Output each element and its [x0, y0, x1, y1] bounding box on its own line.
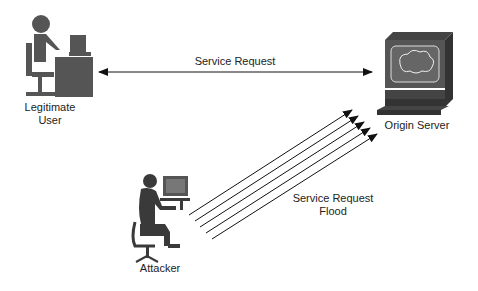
flood-label: Service Request Flood [278, 192, 388, 218]
service-request-label: Service Request [180, 55, 290, 68]
legitimate-user-label-line1: Legitimate [20, 101, 80, 114]
origin-server-label: Origin Server [372, 119, 462, 132]
legitimate-user-label-line2: User [20, 114, 80, 127]
legitimate-user-label: Legitimate User [20, 101, 80, 127]
diagram-canvas [0, 0, 478, 291]
flood-arrows [189, 110, 377, 239]
legitimate-user-icon [26, 15, 93, 97]
flood-label-line1: Service Request [278, 192, 388, 205]
flood-label-line2: Flood [278, 205, 388, 218]
origin-server-icon [377, 32, 453, 115]
attacker-label: Attacker [130, 262, 190, 275]
attacker-icon [133, 174, 190, 262]
